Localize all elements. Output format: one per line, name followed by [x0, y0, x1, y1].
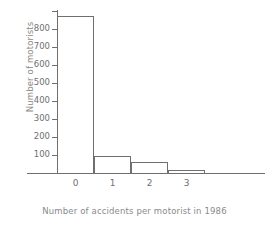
y-tick-top	[52, 11, 58, 12]
plot-area: 100 200 300 400 500 600 700 800 0 1 2 3	[0, 0, 269, 228]
histogram-figure: Number of motorists 100 200 300 400 500 …	[0, 0, 269, 228]
bar	[57, 16, 94, 173]
y-tick-label: 400	[34, 95, 50, 105]
y-tick-label: 700	[34, 41, 50, 51]
y-tick-label: 600	[34, 59, 50, 69]
bar	[131, 162, 168, 173]
x-tick-label: 1	[103, 178, 123, 188]
bar	[168, 170, 205, 173]
y-tick-label: 200	[34, 131, 50, 141]
x-tick-label: 3	[177, 178, 197, 188]
x-axis-title: Number of accidents per motorist in 1986	[0, 206, 269, 216]
y-tick-label: 500	[34, 77, 50, 87]
x-tick-label: 0	[66, 178, 86, 188]
y-tick-label: 800	[34, 23, 50, 33]
x-tick-label: 2	[140, 178, 160, 188]
x-axis-line	[27, 173, 265, 174]
bar	[94, 156, 131, 173]
y-tick-label: 300	[34, 113, 50, 123]
y-tick-label: 100	[34, 149, 50, 159]
